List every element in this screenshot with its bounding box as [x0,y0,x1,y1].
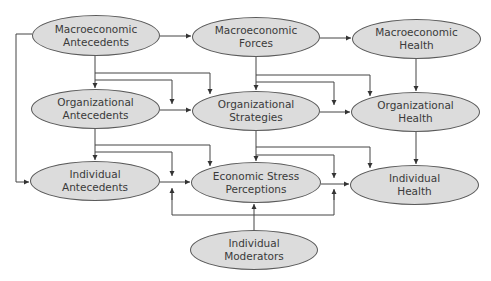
node-macroeconomic-antecedents: Macroeconomic Antecedents [32,15,160,56]
node-organizational-strategies: Organizational Strategies [192,91,320,131]
node-label: Individual Moderators [224,237,284,263]
node-label: Organizational Antecedents [57,96,133,122]
node-organizational-antecedents: Organizational Antecedents [31,89,160,129]
node-macroeconomic-forces: Macroeconomic Forces [192,17,320,57]
node-individual-moderators: Individual Moderators [190,230,318,270]
node-organizational-health: Organizational Health [351,92,480,132]
node-individual-health: Individual Health [350,165,479,205]
economic-stress-model-diagram: Macroeconomic Antecedents Macroeconomic … [0,0,491,281]
node-macroeconomic-health: Macroeconomic Health [352,19,481,59]
node-label: Individual Health [389,172,440,198]
node-label: Economic Stress Perceptions [213,170,299,196]
node-label: Macroeconomic Forces [215,24,297,50]
node-label: Organizational Strategies [218,98,294,124]
node-label: Organizational Health [377,99,453,125]
node-label: Individual Antecedents [62,168,128,194]
node-economic-stress-perceptions: Economic Stress Perceptions [191,162,321,203]
node-individual-antecedents: Individual Antecedents [30,161,160,201]
node-label: Macroeconomic Health [375,26,457,52]
node-label: Macroeconomic Antecedents [55,23,137,49]
